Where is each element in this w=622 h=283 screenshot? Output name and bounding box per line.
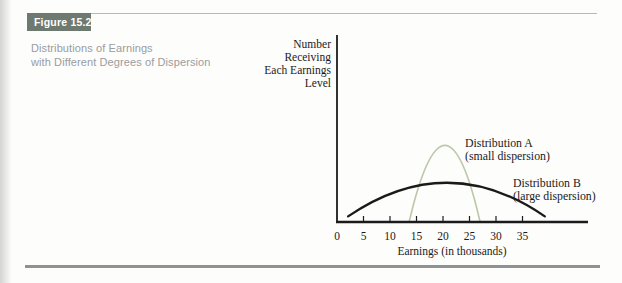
distribution-b-label: (large dispersion) (513, 189, 596, 203)
x-tick-label: 25 (464, 230, 476, 242)
y-axis-title-line: Number (293, 38, 331, 50)
x-tick-label: 15 (411, 230, 423, 242)
bottom-rule (25, 265, 600, 268)
earnings-distribution-chart: 05101520253035Earnings (in thousands)Num… (0, 0, 622, 283)
y-axis-title-line: Level (305, 77, 331, 89)
y-axis-title-line: Receiving (284, 51, 331, 64)
x-tick-label: 30 (490, 230, 502, 242)
x-tick-label: 20 (437, 230, 449, 242)
x-tick-label: 0 (334, 230, 340, 242)
x-axis-title: Earnings (in thousands) (397, 245, 506, 258)
x-tick-label: 35 (517, 230, 529, 242)
y-axis-title-line: Each Earnings (264, 64, 331, 77)
distribution-b-label: Distribution B (513, 176, 581, 190)
distribution-a-label: Distribution A (465, 136, 533, 150)
x-tick-label: 5 (361, 230, 367, 242)
distribution-a-label: (small dispersion) (465, 149, 550, 163)
x-tick-label: 10 (384, 230, 396, 242)
